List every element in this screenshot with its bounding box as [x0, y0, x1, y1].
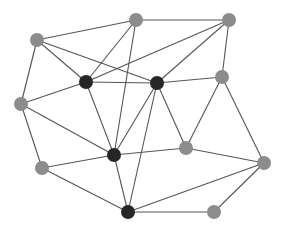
edge-E-H: [114, 83, 157, 155]
edge-H-L: [114, 155, 128, 212]
edge-F-I: [186, 77, 222, 148]
edges-layer: [21, 20, 264, 212]
edge-F-K: [222, 77, 264, 163]
edge-H-J: [42, 155, 114, 168]
edge-I-K: [186, 148, 264, 163]
edge-A-E: [37, 40, 157, 83]
node-E-dark: [150, 76, 164, 90]
edge-K-M: [214, 163, 264, 212]
node-I-gray: [179, 141, 193, 155]
edge-E-F: [157, 77, 222, 83]
edge-A-B: [37, 20, 136, 40]
node-G-gray: [14, 97, 28, 111]
edge-B-H: [114, 20, 136, 155]
node-H-dark: [107, 148, 121, 162]
node-F-gray: [215, 70, 229, 84]
edge-C-D: [86, 20, 229, 82]
node-J-gray: [35, 161, 49, 175]
edge-H-I: [114, 148, 186, 155]
node-C-gray: [222, 13, 236, 27]
node-K-gray: [257, 156, 271, 170]
edge-A-G: [21, 40, 37, 104]
edge-E-L: [128, 83, 157, 212]
edge-E-I: [157, 83, 186, 148]
edge-D-H: [86, 82, 114, 155]
edge-D-E: [86, 82, 157, 83]
node-A-gray: [30, 33, 44, 47]
node-M-gray: [207, 205, 221, 219]
node-D-dark: [79, 75, 93, 89]
nodes-layer: [14, 13, 271, 219]
edge-A-D: [37, 40, 86, 82]
network-graph: [0, 0, 287, 234]
edge-J-L: [42, 168, 128, 212]
edge-K-L: [128, 163, 264, 212]
node-B-gray: [129, 13, 143, 27]
edge-D-G: [21, 82, 86, 104]
node-L-dark: [121, 205, 135, 219]
edge-C-F: [222, 20, 229, 77]
